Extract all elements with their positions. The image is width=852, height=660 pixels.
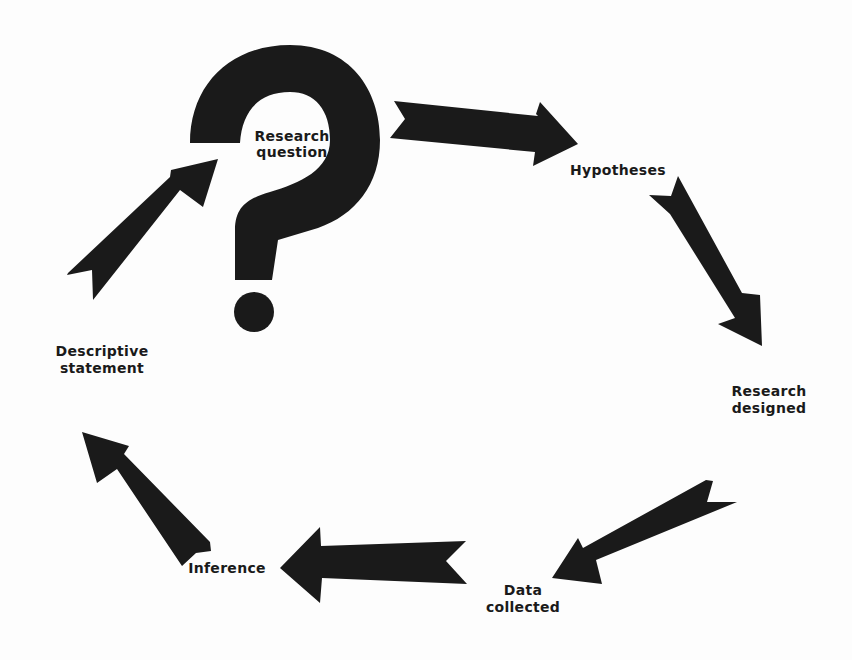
node-research-question-line1: Research	[232, 128, 352, 144]
node-data-collected-line1: Data	[478, 582, 568, 599]
arrow-data-to-inference	[280, 527, 467, 603]
node-data-collected-line2: collected	[478, 599, 568, 616]
arrow-descriptive-to-rq	[67, 159, 218, 300]
arrow-inference-to-descriptive	[82, 432, 211, 566]
node-research-designed-line1: Research	[714, 383, 824, 400]
node-inference: Inference	[172, 560, 282, 577]
question-mark-icon	[190, 45, 380, 332]
node-research-question: Research question	[232, 128, 352, 160]
research-cycle-diagram: Research question Hypotheses Research de…	[0, 0, 852, 660]
node-data-collected: Data collected	[478, 582, 568, 616]
diagram-graphics	[0, 0, 852, 660]
arrow-designed-to-data	[552, 480, 737, 584]
node-research-designed-line2: designed	[714, 400, 824, 417]
node-hypotheses-line1: Hypotheses	[558, 162, 678, 179]
node-descriptive-statement: Descriptive statement	[42, 343, 162, 377]
arrow-hypotheses-to-designed	[649, 176, 762, 346]
node-descriptive-statement-line2: statement	[42, 360, 162, 377]
node-research-question-line2: question	[232, 144, 352, 160]
arrow-rq-to-hypotheses	[390, 101, 578, 166]
node-descriptive-statement-line1: Descriptive	[42, 343, 162, 360]
node-inference-line1: Inference	[172, 560, 282, 577]
node-hypotheses: Hypotheses	[558, 162, 678, 179]
node-research-designed: Research designed	[714, 383, 824, 417]
